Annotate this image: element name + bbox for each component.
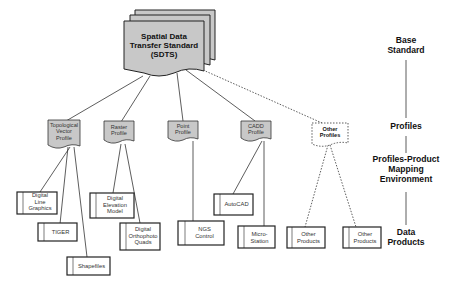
profile-other: Other Profiles	[310, 126, 350, 139]
sdts-label: Spatial Data Transfer Standard (SDTS)	[124, 32, 204, 60]
product-digital-elevation-model: Digital Elevation Model	[96, 195, 134, 215]
legend-profiles: Profiles	[366, 122, 446, 132]
legend-data-products: Data Products	[366, 228, 446, 248]
product-digital-orthophoto-quads: Digital Orthophoto Quads	[126, 226, 160, 246]
legend-base-standard: Base Standard	[366, 36, 446, 56]
product-micro-station: Micro- Station	[244, 231, 275, 244]
profile-topological-vector: Topological Vector Profile	[46, 122, 82, 141]
profile-point: Point Profile	[166, 123, 200, 136]
profile-cadd: CADD Profile	[239, 123, 273, 136]
product-autocad: AutoCAD	[220, 201, 253, 208]
product-shapefiles: Shapefiles	[73, 263, 110, 270]
product-other-products-1: Other Products	[292, 231, 325, 244]
profile-raster: Raster Profile	[102, 124, 136, 137]
product-tiger: TIGER	[44, 229, 77, 236]
product-digital-line-graphics: Digital Line Graphics	[23, 192, 57, 212]
product-ngs-control: NGS Control	[185, 226, 224, 239]
legend-mapping-environment: Profiles-Product Mapping Environment	[356, 155, 456, 185]
